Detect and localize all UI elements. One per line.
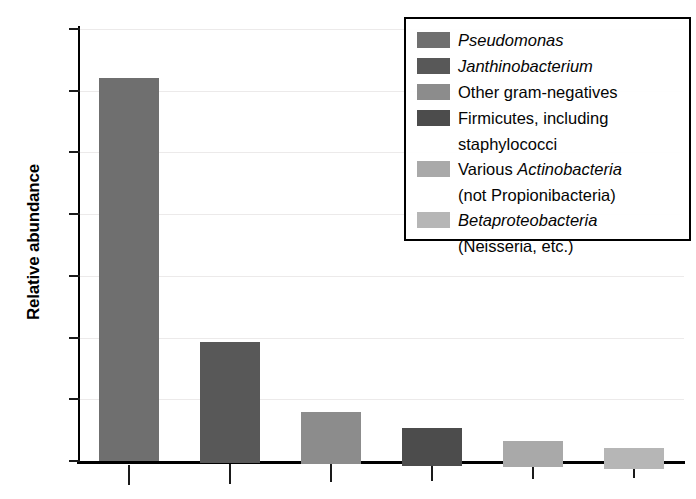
- x-tick-mark: [330, 462, 332, 482]
- legend-item: Betaproteobacteria: [417, 208, 682, 233]
- legend-label-continuation: (Neisseria, etc.): [417, 234, 682, 259]
- legend-label: Firmicutes, including: [458, 106, 608, 131]
- y-tick-mark: [69, 398, 80, 400]
- legend-entry: Betaproteobacteria(Neisseria, etc.): [417, 208, 682, 259]
- bar: [402, 428, 462, 465]
- legend-item: Other gram-negatives: [417, 80, 682, 105]
- x-axis-line: [77, 461, 685, 464]
- legend-label: Betaproteobacteria: [458, 208, 597, 233]
- y-tick-mark: [69, 275, 80, 277]
- y-tick-mark: [69, 213, 80, 215]
- legend-label: Other gram-negatives: [458, 80, 618, 105]
- y-tick-mark: [69, 151, 80, 153]
- legend-label-continuation: (not Propionibacteria): [417, 183, 682, 208]
- y-axis-title: Relative abundance: [24, 142, 44, 342]
- legend-entry: Other gram-negatives: [417, 80, 682, 105]
- legend-swatch-icon: [417, 212, 450, 228]
- legend-entry: Janthinobacterium: [417, 54, 682, 79]
- gridline: [78, 399, 684, 400]
- legend-item: Various Actinobacteria: [417, 157, 682, 182]
- legend-item: Firmicutes, including: [417, 106, 682, 131]
- y-tick-mark: [69, 337, 80, 339]
- gridline: [78, 338, 684, 339]
- legend-swatch-icon: [417, 110, 450, 126]
- legend-swatch-icon: [417, 84, 450, 100]
- y-tick-mark: [69, 460, 80, 462]
- legend-items: PseudomonasJanthinobacteriumOther gram-n…: [417, 28, 682, 259]
- legend-entry: Firmicutes, includingstaphylococci: [417, 106, 682, 157]
- legend-entry: Various Actinobacteria(not Propionibacte…: [417, 157, 682, 208]
- legend-swatch-icon: [417, 58, 450, 74]
- bar-chart: Relative abundance 010203040506070 Pseud…: [0, 0, 696, 499]
- gridline: [78, 276, 684, 277]
- legend-item: Janthinobacterium: [417, 54, 682, 79]
- legend-swatch-icon: [417, 161, 450, 177]
- y-tick-mark: [69, 90, 80, 92]
- legend-item: Pseudomonas: [417, 28, 682, 53]
- bar: [301, 412, 361, 464]
- x-tick-mark: [128, 465, 130, 485]
- legend-entry: Pseudomonas: [417, 28, 682, 53]
- legend-label: Various Actinobacteria: [458, 157, 622, 182]
- legend: PseudomonasJanthinobacteriumOther gram-n…: [404, 17, 691, 241]
- legend-label: Janthinobacterium: [458, 54, 593, 79]
- x-tick-mark: [229, 464, 231, 484]
- legend-label: Pseudomonas: [458, 28, 564, 53]
- y-tick-mark: [69, 28, 80, 30]
- bar: [604, 448, 664, 468]
- bar: [99, 78, 159, 461]
- legend-label-continuation: staphylococci: [417, 132, 682, 157]
- legend-swatch-icon: [417, 32, 450, 48]
- bar: [503, 441, 563, 467]
- bar: [200, 342, 260, 462]
